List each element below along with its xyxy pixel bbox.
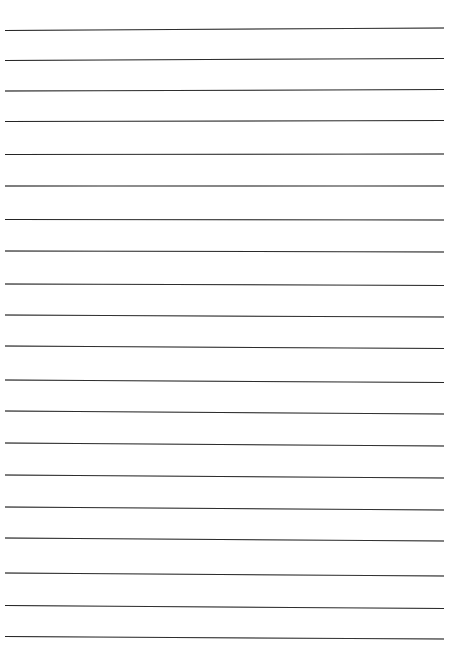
writing-area[interactable] [0,0,450,654]
lined-paper-sheet [0,0,450,654]
